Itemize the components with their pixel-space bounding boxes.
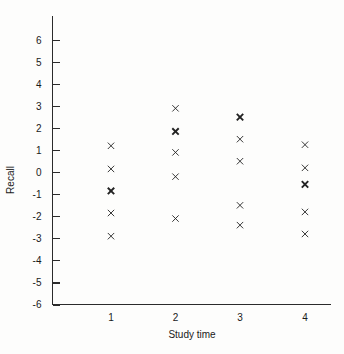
y-tick-label: -2 — [33, 211, 42, 222]
y-tick-2: 2 — [36, 123, 60, 134]
y-tick--5: -5 — [33, 277, 60, 288]
data-point-marker — [302, 141, 308, 147]
data-point-marker — [302, 165, 308, 171]
data-point-marker — [237, 136, 243, 142]
data-point-marker — [237, 222, 243, 228]
x-axis-title: Study time — [168, 329, 216, 340]
y-tick-label: 0 — [36, 167, 42, 178]
y-tick-label: 2 — [36, 123, 42, 134]
x-tick-label: 4 — [302, 312, 308, 323]
data-point-marker — [108, 233, 114, 239]
y-tick-6: 6 — [36, 35, 60, 46]
data-point-marker — [108, 210, 114, 216]
data-point-marker — [302, 181, 308, 187]
y-tick--1: -1 — [33, 189, 60, 200]
y-tick-label: -6 — [33, 299, 42, 310]
y-tick-label: 5 — [36, 57, 42, 68]
x-tick-1: 1 — [108, 312, 114, 323]
data-point-marker — [108, 143, 114, 149]
y-tick-label: -4 — [33, 255, 42, 266]
y-tick-label: 4 — [36, 79, 42, 90]
x-tick-3: 3 — [237, 312, 243, 323]
y-axis-ticks: 6543210-1-2-3-4-5-6 — [33, 35, 60, 311]
y-tick--2: -2 — [33, 211, 60, 222]
plot-canvas: 6543210-1-2-3-4-5-6 1234 Study time Reca… — [0, 0, 344, 354]
y-tick-label: -1 — [33, 189, 42, 200]
y-tick-4: 4 — [36, 79, 60, 90]
data-point-marker — [302, 231, 308, 237]
y-tick-label: 6 — [36, 35, 42, 46]
y-tick-label: -5 — [33, 277, 42, 288]
scatter-plot-figure: 6543210-1-2-3-4-5-6 1234 Study time Reca… — [0, 0, 344, 354]
axes-layer — [53, 16, 332, 305]
data-points-layer — [108, 105, 308, 239]
x-axis-ticks: 1234 — [108, 312, 308, 323]
y-tick--3: -3 — [33, 233, 60, 244]
x-tick-label: 1 — [108, 312, 114, 323]
x-tick-label: 3 — [237, 312, 243, 323]
y-tick-5: 5 — [36, 57, 60, 68]
y-tick-label: -3 — [33, 233, 42, 244]
data-point-marker — [302, 209, 308, 215]
y-tick--6: -6 — [33, 299, 60, 310]
data-point-marker — [172, 149, 178, 155]
data-point-marker — [108, 166, 114, 172]
y-axis-title: Recall — [5, 166, 16, 194]
y-tick-1: 1 — [36, 145, 60, 156]
y-tick-3: 3 — [36, 101, 60, 112]
y-tick--4: -4 — [33, 255, 60, 266]
data-point-marker — [237, 202, 243, 208]
y-tick-label: 3 — [36, 101, 42, 112]
data-point-marker — [172, 105, 178, 111]
data-point-marker — [172, 215, 178, 221]
x-tick-label: 2 — [173, 312, 179, 323]
data-point-marker — [172, 173, 178, 179]
x-tick-2: 2 — [173, 312, 179, 323]
x-tick-4: 4 — [302, 312, 308, 323]
y-tick-label: 1 — [36, 145, 42, 156]
data-point-marker — [108, 188, 114, 194]
y-tick-0: 0 — [36, 167, 60, 178]
data-point-marker — [237, 158, 243, 164]
data-point-marker — [172, 128, 178, 134]
data-point-marker — [237, 114, 243, 120]
